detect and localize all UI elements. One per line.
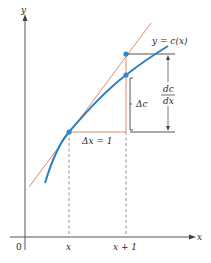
arrow-up-icon xyxy=(166,55,170,60)
origin-label: 0 xyxy=(16,242,22,252)
delta-x-label: Δx = 1 xyxy=(81,136,113,146)
point-x xyxy=(66,129,71,134)
y-axis-arrow-icon xyxy=(23,14,28,21)
derivative-denominator: dx xyxy=(163,96,174,106)
derivative-diagram: y x 0 x x + 1 y = c(x) Δx = 1 Δc dc dx xyxy=(0,0,211,263)
tick-label-x-plus-1: x + 1 xyxy=(113,242,137,252)
point-tangent-x-plus-1 xyxy=(123,51,128,56)
derivative-numerator: dc xyxy=(163,84,174,94)
x-axis-label: x xyxy=(197,232,202,242)
tick-label-x: x xyxy=(66,242,71,252)
delta-c-label: Δc xyxy=(135,99,148,109)
x-axis-arrow-icon xyxy=(189,235,196,240)
y-axis-label: y xyxy=(20,5,27,15)
curve-label: y = c(x) xyxy=(151,36,188,46)
arrow-down-icon xyxy=(166,126,170,131)
point-curve-x-plus-1 xyxy=(123,72,128,77)
curve-c xyxy=(45,46,168,183)
tangent-line xyxy=(29,23,151,187)
